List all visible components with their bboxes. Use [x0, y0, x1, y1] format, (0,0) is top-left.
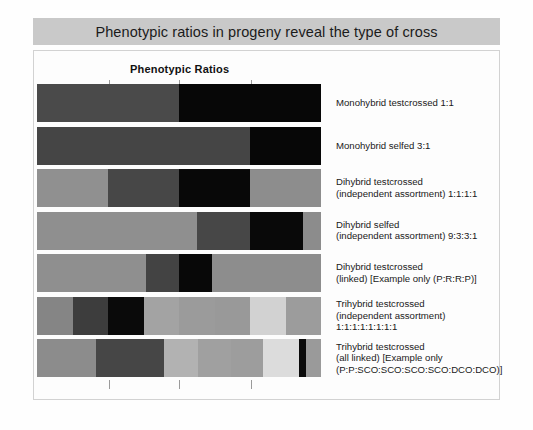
stacked-bar: [37, 169, 321, 207]
chart-row: Dihybrid testcrossed (linked) [Example o…: [34, 254, 494, 292]
chart-row: Monohybrid selfed 3:1: [34, 127, 494, 165]
bar-segment: [197, 212, 250, 250]
stacked-bar: [37, 127, 321, 165]
bar-segment: [108, 297, 144, 335]
chart-heading: Phenotypic Ratios: [130, 63, 229, 75]
bar-segment: [250, 127, 321, 165]
stacked-bar: [37, 339, 321, 377]
row-label: Dihybrid selfed (independent assortment)…: [336, 219, 477, 242]
stacked-bar: [37, 254, 321, 292]
chart-panel: Phenotypic Ratios Monohybrid testcrossed…: [33, 50, 500, 400]
bar-segment: [299, 339, 306, 377]
chart-row: Dihybrid selfed (independent assortment)…: [34, 212, 494, 250]
chart-row: Trihybrid testcrossed (independent assor…: [34, 297, 494, 335]
bar-segment: [108, 169, 179, 207]
axis-tick-bottom-0: [109, 380, 110, 389]
bar-segment: [37, 127, 250, 165]
bar-segment: [250, 297, 286, 335]
bar-segment: [215, 297, 251, 335]
row-label: Trihybrid testcrossed (all linked) [Exam…: [336, 341, 502, 376]
bar-segment: [231, 339, 263, 377]
bar-segment: [37, 169, 108, 207]
bar-segment: [164, 339, 198, 377]
row-label: Trihybrid testcrossed (independent assor…: [336, 298, 445, 333]
row-label: Dihybrid testcrossed (linked) [Example o…: [336, 261, 477, 284]
row-label: Dihybrid testcrossed (independent assort…: [336, 176, 477, 199]
axis-tick-bottom-2: [251, 380, 252, 389]
row-label: Monohybrid selfed 3:1: [336, 140, 430, 152]
bar-segment: [146, 254, 179, 292]
bar-segment: [263, 339, 299, 377]
bar-segment: [37, 212, 197, 250]
bar-segment: [286, 297, 322, 335]
page-title: Phenotypic ratios in progeny reveal the …: [95, 24, 437, 40]
axis-tick-bottom-1: [179, 380, 180, 389]
bar-segment: [37, 84, 179, 122]
bar-segment: [96, 339, 164, 377]
bar-segment: [198, 339, 231, 377]
chart-row: Trihybrid testcrossed (all linked) [Exam…: [34, 339, 494, 377]
title-banner: Phenotypic ratios in progeny reveal the …: [33, 18, 500, 45]
bar-segment: [37, 297, 73, 335]
stacked-bar: [37, 297, 321, 335]
bar-segment: [212, 254, 321, 292]
bar-segment: [250, 212, 303, 250]
bar-segment: [250, 169, 321, 207]
chart-row: Monohybrid testcrossed 1:1: [34, 84, 494, 122]
bar-segment: [306, 339, 321, 377]
bar-segment: [37, 339, 96, 377]
bar-segment: [179, 254, 212, 292]
bar-segment: [179, 84, 321, 122]
bar-segment: [179, 297, 215, 335]
stacked-bar: [37, 212, 321, 250]
bar-segment: [37, 254, 146, 292]
bar-segment: [303, 212, 321, 250]
bar-segment: [179, 169, 250, 207]
row-label: Monohybrid testcrossed 1:1: [336, 97, 454, 109]
bar-segment: [73, 297, 109, 335]
bar-segment: [144, 297, 180, 335]
stacked-bar: [37, 84, 321, 122]
chart-row: Dihybrid testcrossed (independent assort…: [34, 169, 494, 207]
figure-container: Phenotypic ratios in progeny reveal the …: [0, 0, 533, 430]
